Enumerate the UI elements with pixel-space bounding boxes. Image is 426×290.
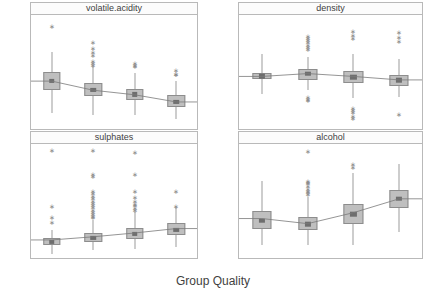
y-tick-mark	[238, 56, 239, 57]
boxplot-outlier: ∗	[49, 23, 55, 30]
y-tick-mark	[238, 24, 239, 25]
boxplot-outlier: ∗	[173, 203, 179, 210]
boxplot-outlier: ∗	[49, 147, 55, 154]
x-tick-mark	[93, 129, 94, 130]
x-tick-mark	[134, 258, 135, 259]
x-tick-label: 2	[305, 258, 310, 259]
x-tick-label: 1	[49, 129, 54, 130]
plot-area-alcohol: 14121081∗∗∗∗∗∗∗∗∗2∗∗34	[238, 143, 423, 259]
boxplot-outlier: ∗	[173, 187, 179, 194]
boxplot-median-marker	[132, 92, 138, 96]
y-tick-mark	[30, 182, 31, 183]
x-tick-mark	[261, 258, 262, 259]
panel-density: density 1.0051.0000.9950.9901∗∗∗∗∗∗∗∗∗∗2…	[238, 2, 423, 130]
boxplot-median-marker	[259, 74, 265, 79]
y-tick-mark	[30, 102, 31, 103]
figure-top-edge	[0, 0, 426, 2]
boxplot-outlier: ∗	[173, 71, 179, 78]
y-tick-mark	[238, 119, 239, 120]
y-tick-mark	[238, 252, 239, 253]
y-tick-mark	[30, 213, 31, 214]
boxplot-median-marker	[90, 88, 96, 92]
y-tick-mark	[30, 150, 31, 151]
plot-area-sulphates: 2.01.51.00.5∗∗∗∗1∗∗∗∗∗∗∗∗∗∗∗∗∗∗∗∗2∗∗∗∗∗∗…	[30, 143, 198, 259]
boxplot-outlier: ∗	[132, 148, 138, 155]
boxplot-median-marker	[350, 212, 356, 217]
y-tick-mark	[30, 76, 31, 77]
boxplot-median-marker	[173, 227, 179, 231]
x-tick-mark	[51, 258, 52, 259]
boxplot-outlier: ∗	[305, 96, 311, 103]
x-axis-title: Group Quality	[0, 274, 426, 288]
boxplot-outlier: ∗	[305, 45, 311, 52]
x-tick-mark	[399, 258, 400, 259]
boxplot-median-marker	[173, 100, 179, 104]
panel-title-sulphates: sulphates	[95, 133, 134, 142]
boxplot-outlier: ∗	[350, 164, 356, 171]
x-tick-mark	[399, 129, 400, 130]
x-tick-label: 1	[49, 258, 54, 259]
x-tick-mark	[176, 129, 177, 130]
x-tick-mark	[353, 129, 354, 130]
x-tick-label: 3	[351, 258, 356, 259]
x-tick-mark	[93, 258, 94, 259]
x-tick-mark	[51, 129, 52, 130]
x-tick-label: 2	[305, 129, 310, 130]
x-tick-label: 3	[132, 258, 137, 259]
boxplot-outlier: ∗	[350, 114, 356, 121]
y-tick-mark	[30, 245, 31, 246]
boxplot-median-marker	[132, 232, 138, 236]
x-tick-label: 1	[259, 129, 264, 130]
boxplot-median-marker	[49, 79, 55, 83]
y-tick-mark	[238, 222, 239, 223]
boxplot-outlier: ∗	[305, 190, 311, 197]
boxplot-outlier: ∗	[90, 147, 96, 154]
y-tick-mark	[30, 129, 31, 130]
boxplot-median-marker	[259, 218, 265, 223]
panel-alcohol: alcohol 14121081∗∗∗∗∗∗∗∗∗2∗∗34	[238, 131, 423, 259]
x-tick-label: 4	[397, 258, 402, 259]
plot-area-volatile-acidity: 1.61.20.80.40.0∗1∗∗∗∗∗∗∗2∗∗∗3∗∗∗4	[30, 14, 198, 130]
y-tick-mark	[238, 193, 239, 194]
boxplot-outlier: ∗	[396, 37, 402, 44]
boxplot-outlier: ∗	[305, 148, 311, 155]
x-tick-mark	[176, 258, 177, 259]
boxplot-outlier: ∗	[90, 214, 96, 221]
x-tick-label: 2	[91, 129, 96, 130]
boxplot-outlier: ∗	[396, 111, 402, 118]
y-tick-mark	[238, 164, 239, 165]
boxplot-outlier: ∗	[132, 206, 138, 213]
panel-title-density: density	[316, 4, 345, 13]
panel-title-alcohol: alcohol	[316, 133, 345, 142]
x-tick-mark	[134, 129, 135, 130]
panel-volatile-acidity: volatile.acidity 1.61.20.80.40.0∗1∗∗∗∗∗∗…	[30, 2, 198, 130]
boxplot-figure: volatile.acidity 1.61.20.80.40.0∗1∗∗∗∗∗∗…	[0, 0, 426, 290]
plot-area-density: 1.0051.0000.9950.9901∗∗∗∗∗∗∗∗∗∗2∗∗∗∗∗∗∗∗…	[238, 14, 423, 130]
y-tick-mark	[238, 87, 239, 88]
boxplot-median-marker	[49, 239, 55, 243]
boxplot-outlier: ∗	[90, 61, 96, 68]
panel-title-volatile-acidity: volatile.acidity	[86, 4, 142, 13]
x-tick-label: 4	[174, 258, 179, 259]
boxplot-outlier: ∗	[49, 218, 55, 225]
boxplot-outlier: ∗	[132, 170, 138, 177]
x-tick-mark	[307, 258, 308, 259]
x-tick-label: 4	[397, 129, 402, 130]
panel-sulphates: sulphates 2.01.51.00.5∗∗∗∗1∗∗∗∗∗∗∗∗∗∗∗∗∗…	[30, 131, 198, 259]
boxplot-median-marker	[396, 196, 402, 201]
x-tick-label: 4	[174, 129, 179, 130]
x-tick-label: 3	[351, 129, 356, 130]
boxplot-median-marker	[305, 222, 311, 227]
x-tick-label: 2	[91, 258, 96, 259]
x-tick-mark	[307, 129, 308, 130]
boxplot-median-marker	[305, 71, 311, 76]
y-tick-mark	[30, 50, 31, 51]
y-tick-mark	[30, 24, 31, 25]
x-tick-label: 1	[259, 258, 264, 259]
x-tick-mark	[261, 129, 262, 130]
boxplot-outlier: ∗	[350, 34, 356, 41]
y-tick-label: 0.0	[30, 124, 31, 130]
boxplot-median-marker	[350, 75, 356, 80]
boxplot-outlier: ∗	[90, 173, 96, 180]
boxplot-median-marker	[90, 236, 96, 240]
